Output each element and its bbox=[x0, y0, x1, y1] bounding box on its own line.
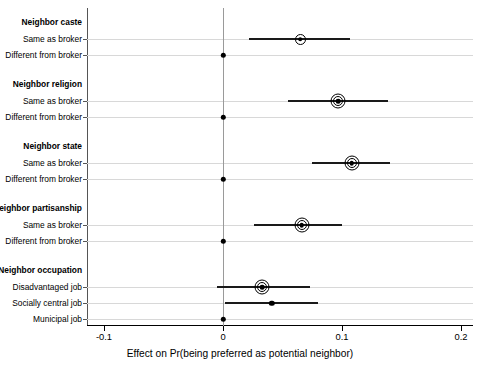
y-tick-mark bbox=[83, 179, 87, 180]
group-heading: Neighbor state bbox=[23, 141, 82, 151]
estimate-marker[interactable] bbox=[269, 301, 274, 306]
estimate-marker[interactable] bbox=[221, 53, 226, 58]
x-tick-label: 0.2 bbox=[454, 331, 467, 342]
row-label: Same as broker bbox=[23, 96, 82, 106]
group-heading: Neighbor partisanship bbox=[0, 203, 82, 213]
gridline bbox=[87, 163, 473, 164]
row-label: Same as broker bbox=[23, 34, 82, 44]
y-tick-mark bbox=[83, 39, 87, 40]
estimate-marker[interactable] bbox=[221, 177, 226, 182]
estimate-marker[interactable] bbox=[294, 217, 310, 233]
gridline bbox=[87, 55, 473, 56]
estimate-marker[interactable] bbox=[344, 155, 360, 171]
estimate-marker[interactable] bbox=[330, 93, 346, 109]
row-label: Disadvantaged job bbox=[13, 282, 82, 292]
panel-bottom-border bbox=[87, 325, 473, 326]
y-tick-mark bbox=[83, 225, 87, 226]
marker-dot bbox=[336, 99, 341, 104]
x-tick-label: 0 bbox=[220, 331, 225, 342]
gridline bbox=[87, 101, 473, 102]
coefficient-plot: Neighbor casteSame as brokerDifferent fr… bbox=[0, 0, 480, 373]
y-tick-mark bbox=[83, 55, 87, 56]
row-label: Different from broker bbox=[5, 174, 82, 184]
row-label: Same as broker bbox=[23, 158, 82, 168]
y-tick-mark bbox=[83, 287, 87, 288]
gridline bbox=[87, 117, 473, 118]
x-tick-label: -0.1 bbox=[96, 331, 112, 342]
estimate-marker[interactable] bbox=[254, 279, 270, 295]
row-label: Same as broker bbox=[23, 220, 82, 230]
y-tick-mark bbox=[83, 163, 87, 164]
y-tick-mark bbox=[83, 303, 87, 304]
plot-area bbox=[87, 8, 473, 326]
estimate-marker[interactable] bbox=[221, 239, 226, 244]
group-heading: Neighbor occupation bbox=[0, 265, 82, 275]
estimate-marker[interactable] bbox=[294, 33, 307, 46]
group-heading: Neighbor religion bbox=[13, 79, 82, 89]
y-tick-mark bbox=[83, 319, 87, 320]
marker-dot bbox=[269, 300, 274, 305]
marker-dot bbox=[260, 285, 265, 290]
estimate-marker[interactable] bbox=[221, 317, 226, 322]
marker-dot bbox=[220, 114, 225, 119]
row-label: Municipal job bbox=[33, 314, 82, 324]
marker-dot bbox=[349, 161, 354, 166]
x-tick-label: 0.1 bbox=[335, 331, 348, 342]
y-tick-mark bbox=[83, 117, 87, 118]
group-heading: Neighbor caste bbox=[21, 17, 82, 27]
marker-dot bbox=[220, 238, 225, 243]
gridline bbox=[87, 179, 473, 180]
row-label: Different from broker bbox=[5, 236, 82, 246]
row-label: Different from broker bbox=[5, 112, 82, 122]
x-axis-title: Effect on Pr(being preferred as potentia… bbox=[0, 348, 480, 359]
marker-dot bbox=[299, 223, 304, 228]
gridline bbox=[87, 241, 473, 242]
marker-dot bbox=[220, 52, 225, 57]
y-tick-mark bbox=[83, 101, 87, 102]
y-tick-mark bbox=[83, 241, 87, 242]
marker-dot bbox=[298, 37, 303, 42]
marker-dot bbox=[220, 176, 225, 181]
row-label: Socially central job bbox=[12, 298, 82, 308]
estimate-marker[interactable] bbox=[221, 115, 226, 120]
gridline bbox=[87, 319, 473, 320]
row-label: Different from broker bbox=[5, 50, 82, 60]
marker-dot bbox=[220, 316, 225, 321]
